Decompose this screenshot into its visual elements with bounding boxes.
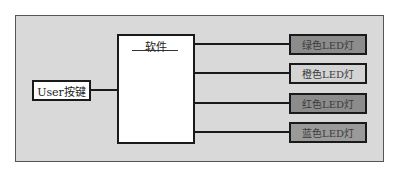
led-orange-label: 橙色LED灯	[302, 66, 354, 81]
connector-software-led-red	[195, 102, 289, 104]
software-title-underline	[132, 50, 178, 51]
user-button-label: User按键	[37, 83, 86, 99]
connector-software-led-green	[195, 43, 289, 45]
connector-software-led-blue	[195, 131, 289, 133]
software-label: 软件	[145, 38, 167, 54]
led-green-block: 绿色LED灯	[289, 34, 367, 55]
connector-software-led-orange	[195, 72, 289, 74]
led-red-label: 红色LED灯	[302, 96, 354, 111]
led-blue-block: 蓝色LED灯	[289, 122, 367, 143]
user-button-block: User按键	[32, 80, 91, 101]
connector-user-software	[91, 89, 117, 91]
software-block: 软件	[117, 34, 195, 144]
led-green-label: 绿色LED灯	[302, 37, 354, 52]
led-blue-label: 蓝色LED灯	[302, 125, 354, 140]
led-red-block: 红色LED灯	[289, 93, 367, 114]
led-orange-block: 橙色LED灯	[289, 63, 367, 84]
